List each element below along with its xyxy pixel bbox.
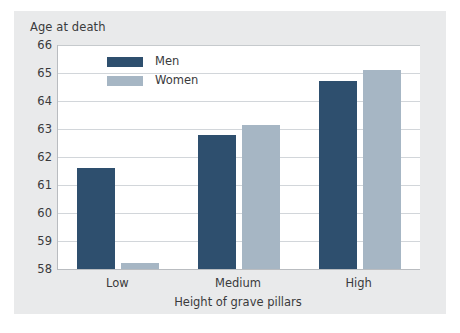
x-axis-tick-label: Low (106, 276, 129, 290)
x-axis-tick-label: Medium (215, 276, 261, 290)
y-axis-tick-label: 61 (22, 178, 52, 192)
legend-swatch-icon (107, 57, 143, 67)
y-axis-tick-label: 66 (22, 38, 52, 52)
bar-high-men (319, 81, 357, 269)
bar-high-women (363, 70, 401, 269)
x-axis-tick-label: High (345, 276, 371, 290)
legend-label: Women (155, 72, 198, 89)
y-axis-tick-label: 59 (22, 234, 52, 248)
chart-figure: Age at death 585960616263646566 LowMediu… (0, 0, 460, 333)
legend-label: Men (155, 53, 179, 70)
legend-item-men: Men (107, 53, 227, 72)
gridline (58, 45, 420, 46)
bar-medium-men (198, 135, 236, 269)
legend-swatch-icon (107, 76, 143, 86)
y-axis-title: Age at death (30, 20, 106, 34)
legend-item-women: Women (107, 72, 227, 91)
bar-medium-women (242, 125, 280, 269)
y-axis-tick-label: 62 (22, 150, 52, 164)
x-axis-title: Height of grave pillars (174, 295, 302, 309)
y-axis-tick-label: 64 (22, 94, 52, 108)
y-axis-tick-label: 63 (22, 122, 52, 136)
chart-legend: MenWomen (107, 53, 227, 91)
bar-low-women (121, 263, 159, 269)
y-axis-tick-label: 65 (22, 66, 52, 80)
y-axis-tick-labels: 585960616263646566 (20, 45, 52, 269)
bar-low-men (77, 168, 115, 269)
y-axis-tick-label: 58 (22, 262, 52, 276)
y-axis-tick-label: 60 (22, 206, 52, 220)
